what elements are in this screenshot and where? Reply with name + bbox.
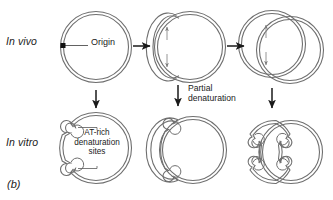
at-rich-denaturation-sites-label: AT-rich denaturation sites	[68, 128, 126, 157]
panel-letter: (b)	[7, 178, 20, 190]
row-label-in-vivo: In vivo	[6, 35, 37, 47]
partial-denaturation-label: Partial denaturation	[188, 83, 236, 104]
origin-marker	[61, 43, 66, 48]
stage-late-replication-bubble	[239, 11, 324, 84]
row-label-in-vitro: In vitro	[6, 136, 38, 148]
stage-denatured-early-bubble	[146, 117, 226, 184]
stage-denatured-late-bubble	[248, 120, 322, 183]
figure-panel-b: In vivo In vitro Origin AT-rich denatura…	[0, 0, 333, 200]
replication-denaturation-diagram	[0, 0, 333, 200]
origin-label: Origin	[91, 37, 115, 48]
stage-early-replication-bubble	[146, 12, 225, 83]
